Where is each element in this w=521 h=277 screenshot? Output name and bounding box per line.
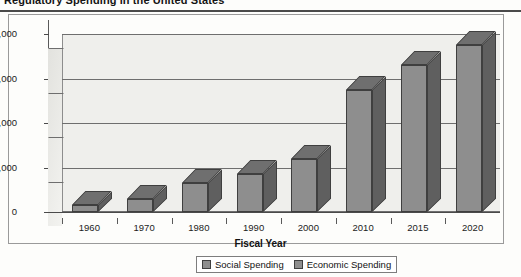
y-axis-tick-mark: [44, 34, 49, 35]
bar-column[interactable]: [401, 65, 427, 212]
bar-front-face: [127, 199, 153, 212]
bar-side-face: [482, 32, 496, 212]
legend-item[interactable]: Social Spending: [202, 259, 284, 270]
y-axis-tick-label: 0: [0, 206, 17, 217]
x-axis-tick-mark: [172, 218, 173, 224]
y-axis-tick-label: 20,000: [0, 162, 17, 173]
x-axis-tick-label: 1970: [122, 222, 166, 233]
gridline: [62, 34, 500, 35]
x-axis-tick-label: 2010: [341, 222, 385, 233]
x-axis-tick-label: 2020: [451, 222, 495, 233]
x-axis-tick-mark: [226, 218, 227, 224]
x-axis-tick-mark: [281, 218, 282, 224]
bar-column[interactable]: [182, 183, 208, 212]
x-axis-tick-mark: [391, 218, 392, 224]
bar-column[interactable]: [291, 159, 317, 212]
bar-column[interactable]: [456, 45, 482, 212]
bar-front-face: [456, 45, 482, 212]
legend-swatch: [294, 260, 303, 269]
x-axis-line: [48, 212, 500, 213]
bar-front-face: [401, 65, 427, 212]
x-axis-tick-label: 1980: [177, 222, 221, 233]
bar-side-face: [372, 76, 386, 212]
bar-column[interactable]: [346, 90, 372, 212]
x-axis-tick-mark: [117, 218, 118, 224]
bar-front-face: [291, 159, 317, 212]
chart-page: Regulatory Spending in the United States…: [0, 0, 521, 277]
chart-legend: Social SpendingEconomic Spending: [196, 256, 397, 273]
bar-column[interactable]: [237, 174, 263, 212]
x-axis-tick-mark: [62, 218, 63, 224]
bar-column[interactable]: [72, 205, 98, 212]
y-axis-tick-label: 40,000: [0, 117, 17, 128]
bar-column[interactable]: [127, 199, 153, 212]
legend-label: Economic Spending: [307, 259, 392, 270]
x-axis-tick-label: 1990: [232, 222, 276, 233]
x-axis-tick-label: 2000: [286, 222, 330, 233]
bar-front-face: [237, 174, 263, 212]
x-axis-tick-mark: [336, 218, 337, 224]
legend-item[interactable]: Economic Spending: [294, 259, 392, 270]
x-axis-tick-labels: 19601970198019902000201020152020: [62, 218, 500, 234]
y-axis-tick-label: 80,000: [0, 28, 17, 39]
x-axis-title: Fiscal Year: [0, 238, 521, 249]
title-divider: [0, 10, 521, 12]
x-axis-tick-label: 2015: [396, 222, 440, 233]
bar-front-face: [346, 90, 372, 212]
bar-front-face: [182, 183, 208, 212]
x-axis-tick-mark: [445, 218, 446, 224]
bar-front-face: [72, 205, 98, 212]
page-title: Regulatory Spending in the United States: [4, 0, 504, 8]
y-axis-tick-label: 60,000: [0, 73, 17, 84]
legend-label: Social Spending: [215, 259, 284, 270]
legend-swatch: [202, 260, 211, 269]
plot-area: [62, 34, 500, 212]
x-axis-tick-label: 1960: [67, 222, 111, 233]
bar-side-face: [427, 52, 441, 212]
